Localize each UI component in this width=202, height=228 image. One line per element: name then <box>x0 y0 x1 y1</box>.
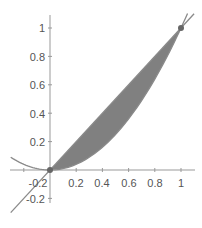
y-tick-label: 0.8 <box>30 51 45 63</box>
y-tick-label: 0.6 <box>30 79 45 91</box>
point-one-one <box>178 25 184 31</box>
x-tick-label: 0.6 <box>121 177 136 189</box>
y-tick-label: 1 <box>39 22 45 34</box>
x-tick-label: 0.4 <box>94 177 109 189</box>
y-tick-label: -0.2 <box>26 193 45 205</box>
chart-canvas: -0.2 0.2 0.4 0.6 0.8 1 1 0.8 0.6 0.4 0.2… <box>0 0 202 228</box>
x-tick-label: 0.2 <box>68 177 83 189</box>
point-origin <box>47 167 53 173</box>
y-tick-label: 0.4 <box>30 108 45 120</box>
x-tick-label: -0.2 <box>29 177 48 189</box>
y-tick-label: 0.2 <box>30 136 45 148</box>
x-tick-label: 1 <box>178 177 184 189</box>
x-tick-label: 0.8 <box>147 177 162 189</box>
